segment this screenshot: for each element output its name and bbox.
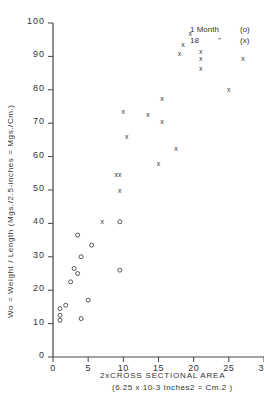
data-point-x: x bbox=[146, 111, 150, 118]
legend: 1 Month (o) 18 " (x) bbox=[190, 24, 264, 46]
y-tick-label: 60 bbox=[33, 150, 45, 160]
y-tick-label: 80 bbox=[33, 83, 45, 93]
data-point-x: x bbox=[118, 171, 122, 178]
data-point-x: x bbox=[160, 118, 164, 125]
x-tick-label: 5 bbox=[85, 363, 91, 373]
data-point-x: x bbox=[160, 95, 164, 102]
data-point-circle bbox=[69, 280, 73, 284]
data-point-x: x bbox=[100, 218, 104, 225]
data-point-x: x bbox=[174, 145, 178, 152]
data-point-circle bbox=[90, 243, 94, 247]
y-axis-label-text: Wo = Weight / Length (Mgs./2.5-inches = … bbox=[6, 104, 15, 318]
y-axis-label: Wo = Weight / Length (Mgs./2.5-inches = … bbox=[4, 60, 24, 320]
data-point-circle bbox=[58, 318, 62, 322]
y-tick-label: 30 bbox=[33, 250, 45, 260]
data-point-circle bbox=[76, 272, 80, 276]
data-point-x: x bbox=[241, 55, 245, 62]
data-point-circle bbox=[64, 303, 68, 307]
x-axis-label: 2xCROSS SECTIONAL AREA bbox=[100, 371, 225, 380]
y-tick-label: 90 bbox=[33, 49, 45, 59]
x-tick-label: 0 bbox=[50, 363, 56, 373]
scatter-chart: 0102030405060708090100051015202530xxxxxx… bbox=[0, 0, 264, 407]
y-tick-label: 40 bbox=[33, 216, 45, 226]
legend-marker-circle: (o) bbox=[240, 24, 250, 35]
data-point-circle bbox=[76, 233, 80, 237]
y-tick-label: 10 bbox=[33, 317, 45, 327]
y-tick-label: 0 bbox=[39, 350, 45, 360]
plot-area: 0102030405060708090100051015202530xxxxxx… bbox=[0, 0, 264, 407]
data-point-circle bbox=[118, 220, 122, 224]
y-tick-label: 70 bbox=[33, 116, 45, 126]
data-point-x: x bbox=[178, 50, 182, 57]
data-point-x: x bbox=[125, 133, 129, 140]
data-point-x: x bbox=[199, 65, 203, 72]
x-tick-label: 30 bbox=[258, 363, 264, 373]
data-point-x: x bbox=[199, 55, 203, 62]
data-point-x: x bbox=[227, 86, 231, 93]
legend-item-1-month: 1 Month (o) bbox=[190, 24, 264, 35]
data-point-circle bbox=[58, 307, 62, 311]
y-tick-label: 100 bbox=[27, 16, 45, 26]
legend-label: 1 Month bbox=[190, 24, 219, 35]
x-axis-units: (6.25 x 10-3 Inches2 = Cm.2 ) bbox=[112, 383, 233, 392]
legend-marker-x: (x) bbox=[240, 35, 249, 46]
data-point-circle bbox=[118, 268, 122, 272]
data-point-x: x bbox=[157, 160, 161, 167]
data-point-circle bbox=[86, 298, 90, 302]
data-point-x: x bbox=[118, 187, 122, 194]
legend-label: 18 bbox=[190, 35, 199, 46]
legend-ditto: " bbox=[218, 35, 221, 46]
data-point-circle bbox=[79, 317, 83, 321]
data-point-circle bbox=[72, 266, 76, 270]
data-point-circle bbox=[79, 255, 83, 259]
data-point-circle bbox=[58, 313, 62, 317]
y-tick-label: 20 bbox=[33, 283, 45, 293]
data-point-x: x bbox=[122, 108, 126, 115]
y-tick-label: 50 bbox=[33, 183, 45, 193]
data-point-x: x bbox=[181, 41, 185, 48]
legend-item-18-months: 18 " (x) bbox=[190, 35, 264, 46]
